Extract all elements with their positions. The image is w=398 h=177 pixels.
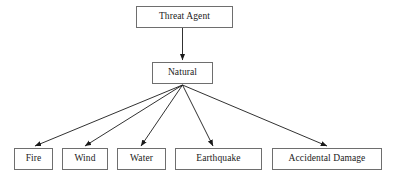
node-earthquake[interactable]: Earthquake xyxy=(175,148,262,170)
edge-natural-fire xyxy=(35,85,183,146)
node-threat-agent[interactable]: Threat Agent xyxy=(136,6,233,28)
node-fire[interactable]: Fire xyxy=(14,148,53,170)
node-wind[interactable]: Wind xyxy=(62,148,108,170)
node-label-earthquake: Earthquake xyxy=(194,154,242,164)
node-water[interactable]: Water xyxy=(117,148,166,170)
node-natural[interactable]: Natural xyxy=(152,62,213,84)
edge-natural-water xyxy=(141,85,183,146)
node-label-accidental-damage: Accidental Damage xyxy=(287,154,368,164)
edge-natural-accidental xyxy=(183,85,328,146)
node-accidental-damage[interactable]: Accidental Damage xyxy=(272,148,382,170)
edges-group xyxy=(35,28,327,146)
node-label-wind: Wind xyxy=(72,154,97,164)
node-label-natural: Natural xyxy=(166,68,199,78)
edge-natural-wind xyxy=(85,85,183,146)
edge-natural-earthquake xyxy=(183,85,214,146)
node-label-fire: Fire xyxy=(24,154,44,164)
node-label-threat-agent: Threat Agent xyxy=(157,12,212,22)
threat-agent-diagram: Threat AgentNaturalFireWindWaterEarthqua… xyxy=(0,0,398,177)
node-label-water: Water xyxy=(128,154,155,164)
